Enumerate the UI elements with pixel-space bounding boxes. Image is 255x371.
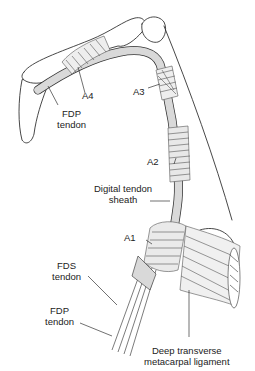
label-fdp-proximal-line2: tendon <box>45 316 74 327</box>
tendon-diagram: A4 FDP tendon A3 A2 Digital tendon sheat… <box>0 0 255 371</box>
proximal-tendons <box>112 256 156 356</box>
label-fdp-proximal: FDP tendon <box>45 305 74 327</box>
label-a1: A1 <box>124 232 136 243</box>
label-fdp-distal-line2: tendon <box>57 119 86 130</box>
label-digital-sheath-line1: Digital tendon <box>94 183 152 194</box>
proximal-phalanx-head <box>142 17 166 42</box>
label-fdp-distal: FDP tendon <box>57 108 86 130</box>
label-fds-tendon: FDS tendon <box>52 260 81 282</box>
label-digital-tendon-sheath: Digital tendon sheath <box>94 183 152 205</box>
label-fds-line1: FDS <box>57 260 76 271</box>
label-fdp-proximal-line1: FDP <box>50 305 69 316</box>
label-dtml-line1: Deep transverse <box>152 345 222 356</box>
label-deep-transverse-metacarpal-ligament: Deep transverse metacarpal ligament <box>144 345 230 367</box>
a2-pulley <box>168 126 190 182</box>
label-fdp-distal-line1: FDP <box>62 108 81 119</box>
label-dtml-line2: metacarpal ligament <box>144 356 230 367</box>
label-a3: A3 <box>133 86 145 97</box>
label-fds-line2: tendon <box>52 271 81 282</box>
a1-pulley <box>144 222 186 272</box>
a3-pulley <box>156 66 178 100</box>
label-digital-sheath-line2: sheath <box>109 194 138 205</box>
label-a4: A4 <box>82 90 94 101</box>
label-a2: A2 <box>147 156 159 167</box>
